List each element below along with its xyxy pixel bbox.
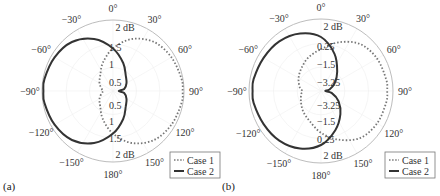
radial-tick-label: 1 (109, 116, 114, 127)
angle-tick-label: 0° (109, 3, 118, 14)
radial-tick-label: 0.5 (109, 77, 122, 88)
angle-tick-label: 180° (312, 170, 331, 181)
radial-unit-label: 2 dB (115, 149, 135, 160)
grid-spoke (285, 29, 321, 91)
angle-tick-label: −30° (269, 13, 289, 24)
radial-tick-label: 0.25 (317, 41, 335, 52)
angle-tick-label: 90° (189, 86, 203, 97)
angle-tick-label: −90° (20, 86, 40, 97)
polar-chart-b: 0°30°60°90°120°150°180°−150°−120°−90°−60… (222, 2, 435, 194)
angle-tick-label: 30° (148, 14, 162, 25)
radial-tick-label: 0.25 (317, 134, 335, 145)
grid-spoke (259, 91, 321, 127)
radial-tick-label: 1 (109, 59, 114, 70)
angle-tick-label: −120° (29, 127, 54, 138)
angle-tick-label: −60° (31, 44, 51, 55)
angle-tick-label: 120° (384, 128, 403, 139)
legend-case-1-label: Case 1 (187, 155, 214, 166)
legend-case-1-label: Case 1 (402, 155, 429, 166)
panel-label: (b) (222, 180, 235, 193)
angle-tick-label: 30° (356, 13, 370, 24)
radial-tick-label: −3.25 (317, 77, 340, 88)
polar-chart-a: 0°30°60°90°120°150°180°−150°−120°−90°−60… (3, 3, 220, 194)
angle-tick-label: −90° (227, 86, 247, 97)
angle-tick-label: 150° (354, 158, 373, 169)
angle-tick-label: −150° (59, 157, 84, 168)
angle-tick-label: 0° (317, 2, 326, 13)
legend: Case 1Case 2 (385, 152, 435, 178)
angle-tick-label: −60° (238, 44, 258, 55)
radial-unit-label: 2 dB (115, 22, 135, 33)
radial-unit-label: 2 dB (323, 150, 343, 161)
legend: Case 1Case 2 (170, 152, 220, 178)
angle-tick-label: −120° (236, 128, 261, 139)
angle-tick-label: 120° (175, 127, 194, 138)
radial-unit-label: 2 dB (323, 21, 343, 32)
legend-case-2-label: Case 2 (402, 166, 429, 177)
grid-spoke (259, 55, 321, 91)
radial-tick-label: 1.5 (109, 133, 122, 144)
radial-tick-label: 1.5 (109, 42, 122, 53)
radial-tick-label: −1.5 (317, 116, 335, 127)
angle-tick-label: 60° (387, 44, 401, 55)
angle-tick-label: 60° (178, 44, 192, 55)
figure: 0°30°60°90°120°150°180°−150°−120°−90°−60… (0, 0, 440, 196)
angle-tick-label: −30° (62, 14, 82, 25)
angle-tick-label: 90° (398, 86, 412, 97)
radial-tick-label: −1.5 (317, 59, 335, 70)
radial-tick-label: 0.5 (109, 100, 122, 111)
panel-label: (a) (3, 180, 16, 193)
radial-tick-label: −3.25 (317, 100, 340, 111)
angle-tick-label: −150° (267, 158, 292, 169)
angle-tick-label: 180° (104, 169, 123, 180)
grid-spoke (52, 56, 113, 92)
legend-case-2-label: Case 2 (187, 166, 214, 177)
grid-spoke (285, 91, 321, 153)
grid-spoke (52, 91, 113, 127)
angle-tick-label: 150° (145, 157, 164, 168)
